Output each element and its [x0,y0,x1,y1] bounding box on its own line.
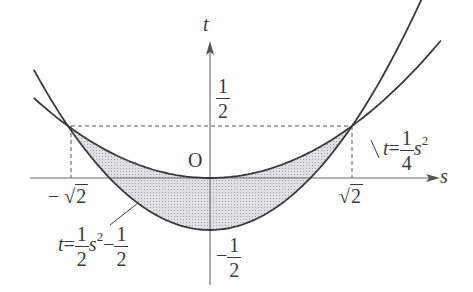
coef-den: 2 [77,247,87,269]
leader-upper-label [371,140,379,158]
radicand: 2 [75,184,88,206]
radical-sign: √ [339,185,350,207]
label-lower-parabola: t=12s2−12 [58,224,128,269]
origin-label: O [188,150,202,170]
t-axis-label: t [203,14,209,34]
tick-num: 1 [216,76,230,99]
s-axis-label: s [440,166,448,186]
minus-sign: − [103,233,114,255]
tick-s-pos-sqrt2: √2 [339,184,363,206]
tick-t-half: 12 [216,76,230,121]
tick-den: 2 [218,99,228,121]
const-den: 2 [116,247,126,269]
minus-sign: − [216,244,227,266]
coef-den: 4 [402,151,412,173]
leader-lower-label [110,203,138,225]
radicand: 2 [350,184,363,206]
coef-num: 1 [400,128,414,151]
tick-num: 1 [227,235,241,258]
coef-num: 1 [75,224,89,247]
tick-den: 2 [229,258,239,280]
exponent: 2 [422,133,429,148]
eq-s: s [89,233,97,255]
diagram: t s O 12 −12 − √2 √2 t=14s2 t=12s2−12 [0,0,473,292]
tick-s-neg-sqrt2: − √2 [48,184,88,206]
radical-sign: √ [64,185,75,207]
label-upper-parabola: t=14s2 [383,128,428,173]
eq-sign: = [389,137,400,159]
const-num: 1 [114,224,128,247]
eq-s: s [414,137,422,159]
eq-sign: = [64,233,75,255]
tick-t-neg-half: −12 [216,235,241,280]
minus-sign: − [48,185,59,207]
